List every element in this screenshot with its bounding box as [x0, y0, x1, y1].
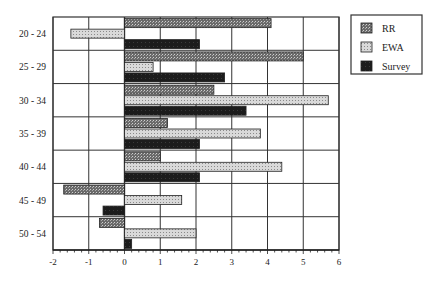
bar-survey — [125, 173, 200, 182]
legend-swatch-rr — [361, 23, 372, 33]
x-tick-label: 2 — [194, 257, 199, 267]
bar-rr — [125, 19, 272, 28]
bar-ewa — [125, 229, 197, 238]
bar-survey — [125, 140, 200, 149]
x-tick-label: 5 — [301, 257, 306, 267]
category-label: 45 - 49 — [19, 196, 46, 206]
x-tick-label: 4 — [265, 257, 270, 267]
category-label: 50 - 54 — [19, 229, 46, 239]
bar-survey — [125, 239, 132, 248]
x-tick-label: -1 — [85, 257, 93, 267]
legend: RREWASurvey — [351, 15, 422, 74]
bar-rr — [125, 85, 214, 94]
category-label: 30 - 34 — [19, 96, 46, 106]
bar-ewa — [125, 96, 329, 105]
bar-rr — [99, 218, 124, 227]
x-tick-label: 3 — [230, 257, 235, 267]
bar-rr — [64, 185, 125, 194]
category-label: 25 - 29 — [19, 62, 46, 72]
legend-label: RR — [382, 23, 396, 34]
category-label: 20 - 24 — [19, 29, 46, 39]
legend-label: Survey — [382, 61, 410, 72]
bar-ewa — [125, 62, 154, 71]
bar-chart: 20 - 2425 - 2930 - 3435 - 3940 - 4445 - … — [0, 0, 437, 281]
x-tick-label: 6 — [337, 257, 342, 267]
bar-rr — [125, 152, 161, 161]
bar-ewa — [125, 162, 282, 171]
x-tick-label: 0 — [122, 257, 127, 267]
legend-swatch-ewa — [361, 42, 372, 52]
category-label: 35 - 39 — [19, 129, 46, 139]
bar-survey — [103, 206, 124, 215]
bar-ewa — [71, 29, 125, 38]
bar-survey — [125, 73, 225, 82]
bar-ewa — [125, 196, 182, 205]
x-tick-label: 1 — [158, 257, 163, 267]
bar-survey — [125, 40, 200, 49]
legend-swatch-survey — [361, 61, 372, 71]
x-tick-label: -2 — [49, 257, 57, 267]
category-label: 40 - 44 — [19, 162, 46, 172]
bar-ewa — [125, 129, 261, 138]
bar-rr — [125, 119, 168, 128]
legend-label: EWA — [382, 42, 404, 53]
bar-survey — [125, 106, 247, 115]
bar-rr — [125, 52, 304, 61]
